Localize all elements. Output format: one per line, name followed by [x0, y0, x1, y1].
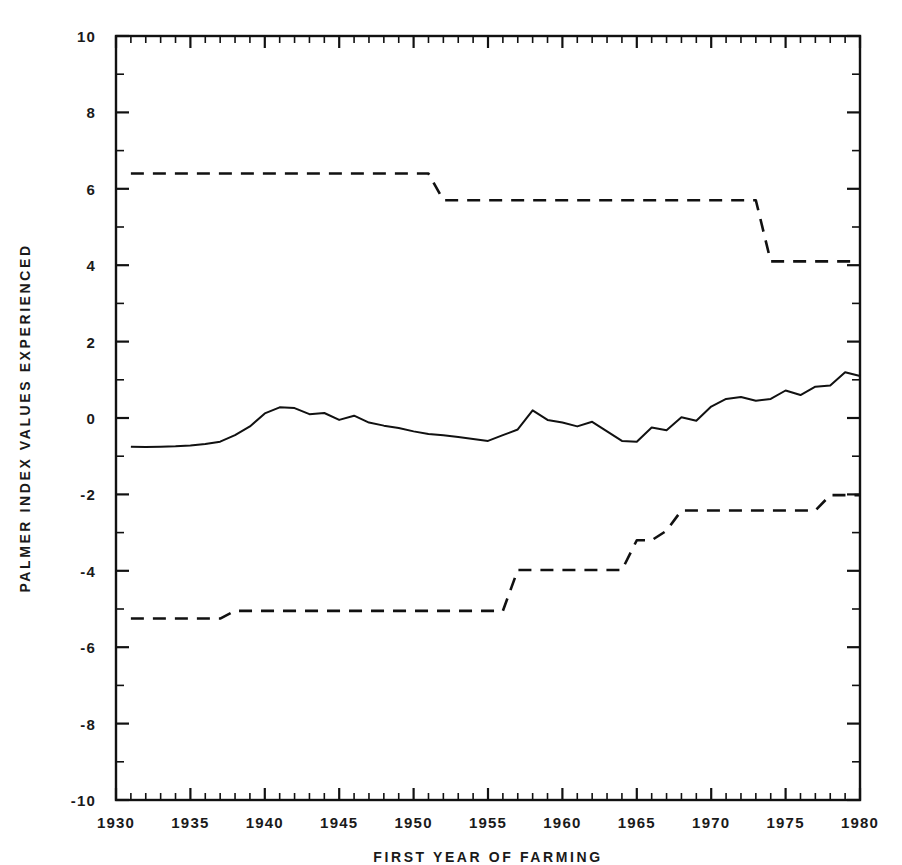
y-tick-label: -6: [80, 639, 96, 656]
y-tick-label: 0: [86, 410, 96, 427]
y-tick-label: 4: [86, 257, 96, 274]
series-line-0: [131, 174, 860, 262]
x-tick-label: 1980: [841, 814, 879, 831]
x-tick-label: 1955: [469, 814, 507, 831]
x-axis-title: FIRST YEAR OF FARMING: [373, 849, 602, 865]
x-tick-label: 1970: [692, 814, 730, 831]
chart-svg: 1930193519401945195019551960196519701975…: [0, 0, 902, 865]
x-tick-label: 1975: [767, 814, 805, 831]
y-tick-label: -8: [80, 716, 96, 733]
x-tick-label: 1930: [97, 814, 135, 831]
x-tick-label: 1950: [395, 814, 433, 831]
y-tick-label: 8: [86, 104, 96, 121]
plot-frame: [116, 36, 860, 800]
series-line-2: [131, 495, 860, 618]
y-tick-label: -4: [80, 563, 96, 580]
y-tick-label: 6: [86, 181, 96, 198]
y-tick-label: 10: [77, 28, 96, 45]
x-tick-label: 1965: [618, 814, 656, 831]
x-tick-label: 1940: [246, 814, 284, 831]
y-tick-label: -2: [80, 486, 96, 503]
series-line-1: [131, 372, 860, 447]
x-tick-label: 1935: [171, 814, 209, 831]
y-tick-label: 2: [86, 334, 96, 351]
palmer-index-chart: 1930193519401945195019551960196519701975…: [0, 0, 902, 865]
x-tick-label: 1960: [543, 814, 581, 831]
x-tick-label: 1945: [320, 814, 358, 831]
y-tick-label: -10: [71, 792, 96, 809]
y-axis-title: PALMER INDEX VALUES EXPERIENCED: [17, 243, 33, 592]
